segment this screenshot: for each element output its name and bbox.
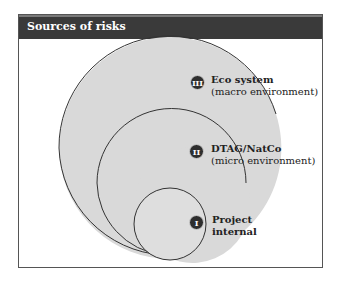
- level-iii-title: Eco system: [211, 74, 274, 85]
- level-ii-title: DTAG/NatCo: [211, 143, 281, 154]
- level-i-badge: I: [189, 215, 204, 230]
- level-iii-subtitle: (macro environment): [211, 86, 318, 97]
- level-i-subtitle: internal: [212, 226, 257, 237]
- level-iii-label: Eco system (macro environment): [211, 74, 318, 98]
- level-ii-label: DTAG/NatCo (micro environment): [211, 143, 315, 167]
- level-ii-badge: II: [189, 144, 204, 159]
- level-iii-badge: III: [190, 75, 205, 90]
- level-i-title: Project: [212, 214, 252, 225]
- level-i-label: Project internal: [212, 214, 257, 238]
- level-ii-subtitle: (micro environment): [211, 155, 315, 166]
- risk-circles-diagram: [0, 0, 340, 283]
